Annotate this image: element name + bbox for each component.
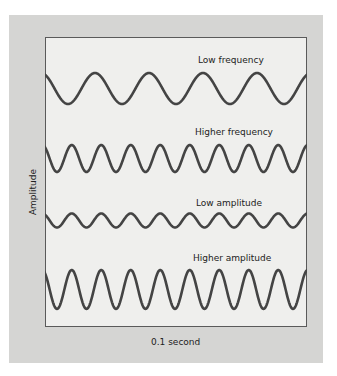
x-axis-label: 0.1 second	[151, 337, 200, 347]
wave-label-low-frequency: Low frequency	[198, 55, 264, 65]
wave-low-amplitude	[40, 214, 312, 228]
y-axis-label: Amplitude	[28, 169, 38, 215]
wave-higher-frequency	[40, 145, 312, 172]
wave-label-higher-amplitude: Higher amplitude	[193, 253, 271, 263]
wave-label-higher-frequency: Higher frequency	[195, 127, 273, 137]
wave-label-low-amplitude: Low amplitude	[196, 198, 262, 208]
wave-higher-amplitude	[40, 270, 312, 309]
wave-low-frequency	[40, 73, 312, 104]
waveforms	[0, 0, 337, 376]
